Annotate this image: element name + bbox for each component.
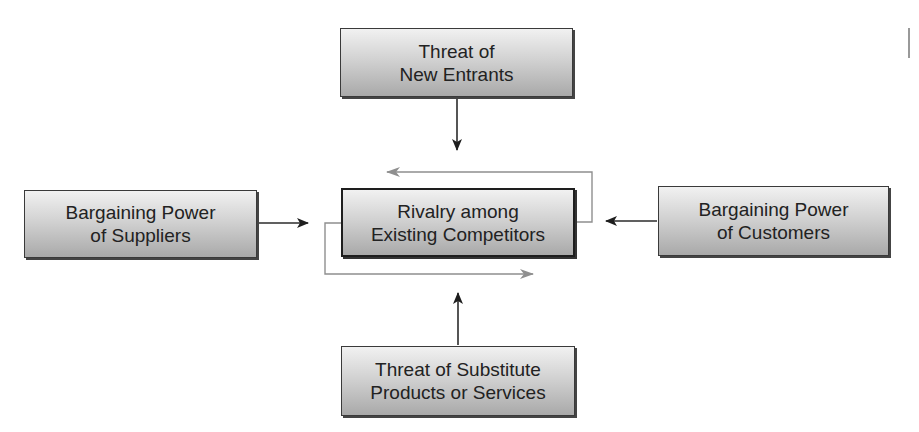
node-label-line2: of Suppliers <box>90 224 190 247</box>
node-threat-of-new-entrants: Threat of New Entrants <box>340 28 573 97</box>
node-label-line2: New Entrants <box>399 63 513 86</box>
node-label-line2: Products or Services <box>370 381 545 404</box>
node-label-line2: Existing Competitors <box>371 223 545 246</box>
node-label-line1: Bargaining Power <box>66 201 216 224</box>
node-label-line1: Threat of Substitute <box>375 358 541 381</box>
node-bargaining-power-of-customers: Bargaining Power of Customers <box>658 186 889 256</box>
node-label-line1: Bargaining Power <box>699 198 849 221</box>
node-rivalry-among-existing-competitors: Rivalry among Existing Competitors <box>341 188 575 257</box>
node-threat-of-substitutes: Threat of Substitute Products or Service… <box>341 346 575 416</box>
node-label-line2: of Customers <box>717 221 830 244</box>
node-label-line1: Threat of <box>418 40 494 63</box>
node-bargaining-power-of-suppliers: Bargaining Power of Suppliers <box>24 190 257 258</box>
node-label-line1: Rivalry among <box>397 200 518 223</box>
page-edge-mark <box>908 28 910 58</box>
